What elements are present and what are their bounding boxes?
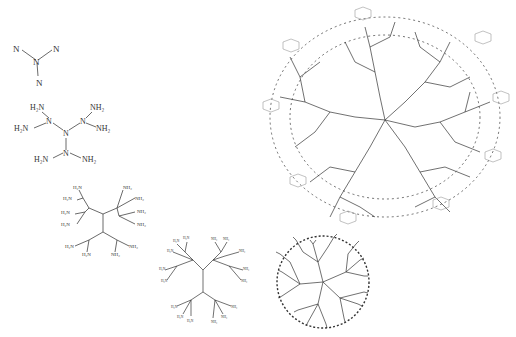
svg-text:N: N xyxy=(33,57,40,67)
g0-structure: N N N N xyxy=(8,38,68,88)
svg-text:NH₂: NH₂ xyxy=(137,209,146,214)
svg-text:NH₂: NH₂ xyxy=(223,237,230,241)
svg-text:N: N xyxy=(63,129,69,138)
sugar-group xyxy=(475,31,491,44)
svg-text:NH₂: NH₂ xyxy=(82,155,97,164)
svg-text:H₂N: H₂N xyxy=(73,185,82,190)
svg-text:H₂N: H₂N xyxy=(63,196,72,201)
g3-structure: H₂N H₂N H₂N H₂N H₂N NH₂ NH₂ NH₂ NH₂ NH₂ … xyxy=(155,230,260,330)
svg-text:N: N xyxy=(80,117,86,126)
svg-text:H₂N: H₂N xyxy=(61,222,70,227)
g4-structure xyxy=(268,232,378,332)
svg-text:NH₂: NH₂ xyxy=(90,103,105,112)
svg-text:N: N xyxy=(36,78,43,88)
svg-text:H₂N: H₂N xyxy=(14,124,29,133)
svg-text:NH₂: NH₂ xyxy=(123,185,132,190)
svg-text:NH₂: NH₂ xyxy=(211,237,218,241)
sugar-group xyxy=(340,211,356,224)
sugar-group xyxy=(283,39,299,52)
svg-text:H₂N: H₂N xyxy=(171,305,178,309)
dendrimer-g0: N N N N xyxy=(8,38,68,88)
svg-text:NH₂: NH₂ xyxy=(221,315,228,319)
svg-text:H₂N: H₂N xyxy=(177,315,184,319)
svg-text:H₂N: H₂N xyxy=(183,236,190,240)
sugar-group xyxy=(263,99,279,112)
svg-text:H₂N: H₂N xyxy=(159,267,166,271)
sugar-group xyxy=(485,149,501,162)
dendrimer-g4 xyxy=(268,232,378,332)
svg-text:NH₂: NH₂ xyxy=(241,279,248,283)
svg-text:H₂N: H₂N xyxy=(34,155,49,164)
sugar-group xyxy=(355,7,371,20)
g1-structure: H₂N H₂N N N N NH₂ NH₂ N H₂N NH₂ xyxy=(8,98,138,173)
svg-text:NH₂: NH₂ xyxy=(135,196,144,201)
svg-text:NH₂: NH₂ xyxy=(211,320,218,324)
svg-text:N: N xyxy=(13,44,20,54)
svg-text:NH₂: NH₂ xyxy=(129,244,138,249)
glycodendrimer-structure xyxy=(255,2,515,227)
svg-text:H₂N: H₂N xyxy=(65,244,74,249)
svg-text:NH₂: NH₂ xyxy=(239,249,246,253)
svg-text:N: N xyxy=(53,44,60,54)
svg-text:NH₂: NH₂ xyxy=(96,124,111,133)
dendrimer-g3: H₂N H₂N H₂N H₂N H₂N NH₂ NH₂ NH₂ NH₂ NH₂ … xyxy=(155,230,260,330)
glycodendrimer xyxy=(255,2,515,227)
dendrimer-g1: H₂N H₂N N N N NH₂ NH₂ N H₂N NH₂ xyxy=(8,98,138,173)
svg-text:NH₂: NH₂ xyxy=(243,267,250,271)
svg-text:H₂N: H₂N xyxy=(173,239,180,243)
svg-text:N: N xyxy=(46,117,52,126)
svg-text:H₂N: H₂N xyxy=(167,249,174,253)
svg-text:NH₂: NH₂ xyxy=(137,222,146,227)
svg-text:H₂N: H₂N xyxy=(61,210,70,215)
dendrimer-g2: H₂N H₂N H₂N H₂N NH₂ NH₂ NH₂ NH₂ H₂N H₂N … xyxy=(55,180,165,265)
sugar-group xyxy=(290,174,306,187)
sugar-group xyxy=(433,197,449,210)
g2-structure: H₂N H₂N H₂N H₂N NH₂ NH₂ NH₂ NH₂ H₂N H₂N … xyxy=(55,180,165,265)
svg-text:H₂N: H₂N xyxy=(30,103,45,112)
svg-text:H₂N: H₂N xyxy=(161,279,168,283)
svg-text:H₂N: H₂N xyxy=(82,252,91,257)
svg-text:N: N xyxy=(63,149,69,158)
svg-text:NH₂: NH₂ xyxy=(111,252,120,257)
sugar-group xyxy=(493,91,509,104)
svg-text:NH₂: NH₂ xyxy=(231,305,238,309)
svg-text:H₂N: H₂N xyxy=(187,319,194,323)
